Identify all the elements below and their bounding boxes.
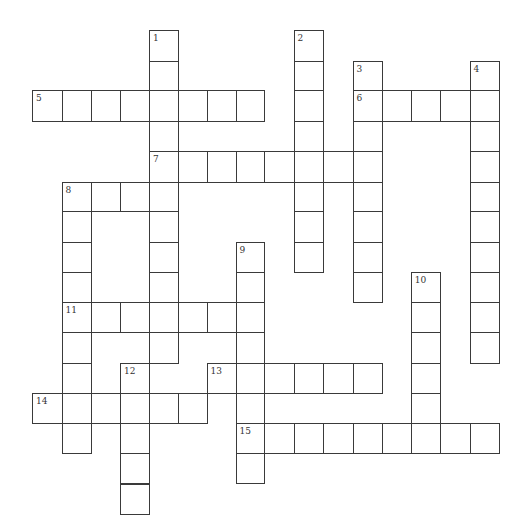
grid-cell[interactable] xyxy=(323,363,354,394)
grid-cell[interactable] xyxy=(62,423,92,454)
grid-cell[interactable] xyxy=(62,211,92,243)
grid-cell[interactable] xyxy=(62,363,92,394)
grid-cell[interactable]: 5 xyxy=(32,90,63,122)
grid-cell[interactable] xyxy=(294,242,325,273)
grid-cell[interactable] xyxy=(264,363,295,394)
grid-cell[interactable] xyxy=(353,211,383,243)
grid-cell[interactable] xyxy=(120,302,150,333)
grid-cell[interactable]: 9 xyxy=(236,242,266,273)
grid-cell[interactable] xyxy=(149,393,179,425)
grid-cell[interactable] xyxy=(149,242,179,273)
grid-cell[interactable] xyxy=(178,90,208,122)
grid-cell[interactable] xyxy=(353,121,383,152)
grid-cell[interactable] xyxy=(294,182,325,213)
grid-cell[interactable] xyxy=(411,332,441,364)
grid-cell[interactable]: 1 xyxy=(149,30,179,62)
grid-cell[interactable] xyxy=(294,121,325,152)
grid-cell[interactable] xyxy=(470,302,501,333)
grid-cell[interactable] xyxy=(91,393,122,425)
grid-cell[interactable] xyxy=(470,272,501,304)
grid-cell[interactable] xyxy=(91,302,122,333)
grid-cell[interactable] xyxy=(149,61,179,91)
grid-cell[interactable] xyxy=(62,272,92,304)
grid-cell[interactable] xyxy=(294,363,325,394)
grid-cell[interactable]: 3 xyxy=(353,61,383,91)
grid-cell[interactable] xyxy=(178,151,208,183)
grid-cell[interactable] xyxy=(120,423,150,454)
grid-cell[interactable]: 12 xyxy=(120,363,150,394)
grid-cell[interactable] xyxy=(440,90,471,122)
grid-cell[interactable] xyxy=(411,393,441,425)
grid-cell[interactable] xyxy=(236,332,266,364)
grid-cell[interactable]: 7 xyxy=(149,151,179,183)
grid-cell[interactable] xyxy=(149,121,179,152)
grid-cell[interactable] xyxy=(440,423,471,454)
grid-cell[interactable] xyxy=(120,182,150,213)
grid-cell[interactable] xyxy=(382,90,412,122)
grid-cell[interactable] xyxy=(62,90,92,122)
grid-cell[interactable] xyxy=(207,151,237,183)
grid-cell[interactable] xyxy=(236,453,266,485)
grid-cell[interactable] xyxy=(62,332,92,364)
grid-cell[interactable] xyxy=(236,151,266,183)
grid-cell[interactable] xyxy=(353,242,383,273)
grid-cell[interactable] xyxy=(236,272,266,304)
grid-cell[interactable] xyxy=(62,393,92,425)
grid-cell[interactable] xyxy=(382,423,412,454)
grid-cell[interactable] xyxy=(470,151,501,183)
grid-cell[interactable] xyxy=(236,90,266,122)
grid-cell[interactable] xyxy=(353,272,383,304)
grid-cell[interactable] xyxy=(62,242,92,273)
grid-cell[interactable]: 11 xyxy=(62,302,92,333)
grid-cell[interactable] xyxy=(120,453,150,485)
grid-cell[interactable] xyxy=(178,393,208,425)
grid-cell[interactable] xyxy=(149,182,179,213)
grid-cell[interactable] xyxy=(353,151,383,183)
grid-cell[interactable] xyxy=(411,363,441,394)
grid-cell[interactable] xyxy=(149,211,179,243)
grid-cell[interactable] xyxy=(294,90,325,122)
grid-cell[interactable] xyxy=(353,363,383,394)
grid-cell[interactable] xyxy=(149,272,179,304)
grid-cell[interactable] xyxy=(149,332,179,364)
grid-cell[interactable] xyxy=(149,90,179,122)
grid-cell[interactable] xyxy=(178,302,208,333)
grid-cell[interactable] xyxy=(264,423,295,454)
grid-cell[interactable] xyxy=(470,121,501,152)
grid-cell[interactable] xyxy=(353,423,383,454)
grid-cell[interactable] xyxy=(323,423,354,454)
grid-cell[interactable]: 15 xyxy=(236,423,266,454)
grid-cell[interactable]: 10 xyxy=(411,272,441,304)
grid-cell[interactable] xyxy=(353,182,383,213)
grid-cell[interactable] xyxy=(470,423,501,454)
grid-cell[interactable] xyxy=(236,393,266,425)
grid-cell[interactable] xyxy=(120,393,150,425)
grid-cell[interactable] xyxy=(323,151,354,183)
grid-cell[interactable] xyxy=(470,332,501,364)
grid-cell[interactable] xyxy=(294,211,325,243)
grid-cell[interactable] xyxy=(294,423,325,454)
grid-cell[interactable] xyxy=(120,90,150,122)
grid-cell[interactable] xyxy=(470,90,501,122)
grid-cell[interactable]: 4 xyxy=(470,61,501,91)
grid-cell[interactable] xyxy=(236,363,266,394)
grid-cell[interactable]: 14 xyxy=(32,393,63,425)
grid-cell[interactable]: 2 xyxy=(294,30,325,62)
grid-cell[interactable] xyxy=(149,302,179,333)
grid-cell[interactable] xyxy=(411,90,441,122)
grid-cell[interactable] xyxy=(470,182,501,213)
grid-cell[interactable] xyxy=(470,242,501,273)
grid-cell[interactable]: 6 xyxy=(353,90,383,122)
grid-cell[interactable] xyxy=(294,151,325,183)
grid-cell[interactable] xyxy=(91,182,122,213)
grid-cell[interactable] xyxy=(411,423,441,454)
grid-cell[interactable] xyxy=(236,302,266,333)
grid-cell[interactable] xyxy=(411,302,441,333)
grid-cell[interactable] xyxy=(294,61,325,91)
grid-cell[interactable] xyxy=(264,151,295,183)
grid-cell[interactable] xyxy=(207,302,237,333)
grid-cell[interactable]: 8 xyxy=(62,182,92,213)
grid-cell[interactable] xyxy=(207,90,237,122)
grid-cell[interactable] xyxy=(470,211,501,243)
grid-cell[interactable]: 13 xyxy=(207,363,237,394)
